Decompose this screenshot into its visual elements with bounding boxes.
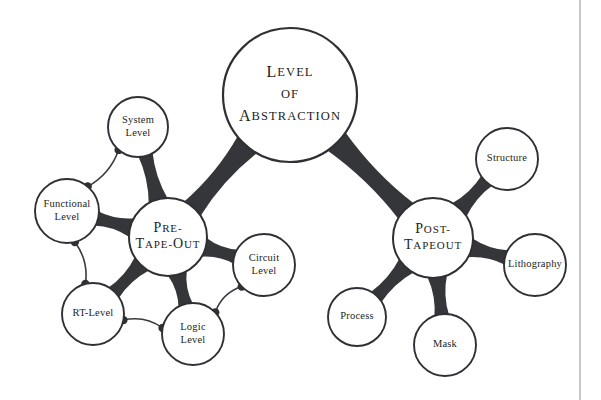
node-pre-tape-out[interactable]: PRE-TAPE-OUT (129, 198, 207, 276)
connector-pre-tape-out-to-system-level (138, 152, 168, 205)
arc-path (88, 150, 119, 187)
sibling-arc-rt-level-logic-level (119, 316, 167, 332)
node-rt-level[interactable]: RT-Level (62, 283, 124, 345)
arc-path (75, 242, 86, 284)
node-post-tapeout[interactable]: POST-TAPEOUT (393, 198, 473, 278)
node-process[interactable]: Process (328, 288, 386, 346)
node-logic-level[interactable]: LogicLevel (162, 303, 224, 365)
node-label-structure: Structure (487, 152, 527, 163)
abstraction-level-diagram: LEVELOFABSTRACTIONPRE-TAPE-OUTSystemLeve… (0, 0, 601, 400)
node-mask[interactable]: Mask (414, 314, 476, 376)
connector-level-of-abstraction-to-pre-tape-out (183, 135, 257, 216)
connector-post-tapeout-to-mask (427, 274, 449, 317)
node-layer: LEVELOFABSTRACTIONPRE-TAPE-OUTSystemLeve… (35, 28, 566, 376)
node-system-level[interactable]: SystemLevel (108, 97, 168, 157)
diagram-canvas: LEVELOFABSTRACTIONPRE-TAPE-OUTSystemLeve… (0, 0, 601, 400)
connector-level-of-abstraction-to-post-tapeout (326, 131, 414, 219)
node-label-rt-level: RT-Level (73, 307, 114, 318)
node-level-of-abstraction[interactable]: LEVELOFABSTRACTION (223, 28, 357, 162)
sibling-arc-system-level-functional-level (83, 146, 122, 191)
node-label-process: Process (340, 310, 373, 321)
node-label-lithography: Lithography (508, 258, 563, 269)
node-lithography[interactable]: Lithography (504, 234, 566, 296)
node-circuit-level[interactable]: CircuitLevel (233, 234, 295, 296)
sibling-arc-logic-level-circuit-level (211, 282, 246, 316)
node-structure[interactable]: Structure (476, 128, 538, 190)
sibling-arc-functional-level-rt-level (71, 238, 90, 288)
node-label-mask: Mask (433, 338, 458, 349)
node-functional-level[interactable]: FunctionalLevel (35, 179, 99, 243)
arc-path (123, 319, 162, 328)
arc-path (215, 287, 242, 313)
